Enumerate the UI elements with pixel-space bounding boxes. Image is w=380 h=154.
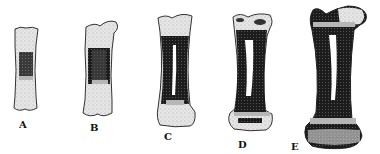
bone-ossification-figure: A B C D E xyxy=(0,0,380,154)
figure-svg xyxy=(0,0,380,154)
label-a: A xyxy=(19,119,27,130)
bone-c xyxy=(157,14,195,126)
bone-d xyxy=(229,14,273,131)
label-d: D xyxy=(238,139,247,150)
bone-b xyxy=(83,21,118,116)
label-c: C xyxy=(164,131,172,142)
bone-e xyxy=(305,6,367,149)
bone-a xyxy=(14,27,38,110)
label-e: E xyxy=(291,141,299,152)
label-b: B xyxy=(90,122,98,133)
